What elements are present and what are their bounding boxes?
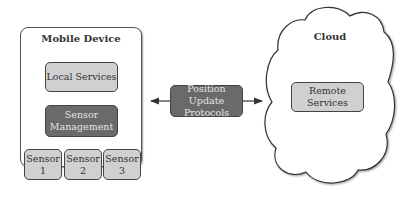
sensor-2-box: Sensor 2 (64, 149, 102, 180)
sensor-management-box: Sensor Management (45, 105, 118, 137)
mobile-device-container (20, 27, 142, 167)
position-update-protocols-box: Position Update Protocols (170, 85, 243, 117)
local-services-box: Local Services (45, 62, 118, 92)
sensor-1-box: Sensor 1 (24, 149, 62, 180)
cloud-title: Cloud (300, 31, 360, 42)
remote-services-box: Remote Services (291, 82, 364, 112)
mobile-device-title: Mobile Device (20, 33, 142, 44)
sensor-3-box: Sensor 3 (103, 149, 141, 180)
